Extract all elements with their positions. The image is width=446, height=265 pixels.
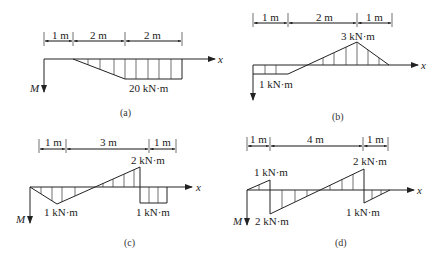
dim-label: 1 m [366,11,383,23]
dim-label: 1 m [250,133,267,145]
moment-value-label: 1 kN·m [44,206,78,218]
moment-value-label: 20 kN·m [129,82,169,94]
dimension-line-a: 1 m 2 m 2 m [44,29,182,46]
moment-curve-b [253,42,389,74]
panel-c: 1 m 3 m 1 m x M 2 kN·m 1 kN·m 1 kN·m (c) [15,136,201,249]
dimension-line-b: 1 m 2 m 1 m [253,11,392,27]
caption-c: (c) [124,237,135,249]
dim-label: 1 m [154,136,171,148]
x-axis-label: x [195,181,201,193]
moment-value-label: 2 kN·m [131,154,165,166]
dim-label: 2 m [144,29,161,41]
moment-value-label: 2 kN·m [353,155,387,167]
dim-label: 2 m [90,29,107,41]
x-axis-label: x [420,59,426,71]
m-axis-label: M [15,213,26,225]
moment-curve-a [73,59,182,79]
dim-label: 3 m [100,136,117,148]
dim-label: 1 m [45,136,62,148]
dim-label: 1 m [367,133,384,145]
dim-label: 2 m [316,11,333,23]
moment-value-label: 2 kN·m [255,215,289,227]
dim-label: 4 m [307,133,324,145]
m-axis-label: M [29,82,40,94]
x-axis-label: x [217,53,223,65]
moment-value-label: 1 kN·m [259,78,293,90]
moment-value-label: 1 kN·m [136,206,170,218]
dim-label: 1 m [262,11,279,23]
panel-d: 1 m 4 m 1 m x M 1 kN·m 2 kN·m 2 kN·m 1 k… [232,133,422,249]
panel-b: 1 m 2 m 1 m x 3 kN·m 1 kN·m (b) [253,11,426,123]
x-axis-label: x [416,184,422,196]
moment-value-label: 1 kN·m [346,206,380,218]
dim-label: 1 m [52,29,69,41]
dimension-line-d: 1 m 4 m 1 m [247,133,388,151]
moment-diagrams-figure: 1 m 2 m 2 m x M 20 kN·m (a) [0,0,446,265]
moment-value-label: 3 kN·m [341,30,375,42]
panel-a: 1 m 2 m 2 m x M 20 kN·m (a) [29,29,223,119]
caption-a: (a) [120,107,131,119]
moment-value-label: 1 kN·m [254,166,288,178]
moment-curve-c [30,167,167,204]
dimension-line-c: 1 m 3 m 1 m [39,136,176,153]
caption-b: (b) [332,111,344,123]
caption-d: (d) [335,237,347,249]
m-axis-label: M [232,215,243,227]
